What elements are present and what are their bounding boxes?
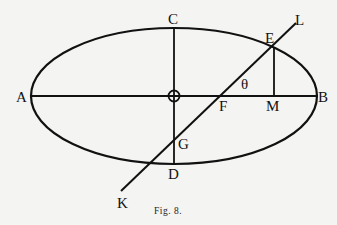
label-E: E [265,30,274,46]
label-M: M [266,98,279,114]
label-theta: θ [241,76,248,92]
label-A: A [16,89,27,105]
label-K: K [117,195,128,211]
label-F: F [219,98,227,114]
label-G: G [178,136,189,152]
label-D: D [168,166,179,182]
label-B: B [318,89,328,105]
ellipse-diagram: A B C D E L F M G K θ Fig. 8. [0,0,337,225]
label-L: L [295,12,304,28]
figure-caption: Fig. 8. [154,206,182,216]
label-C: C [168,11,178,27]
